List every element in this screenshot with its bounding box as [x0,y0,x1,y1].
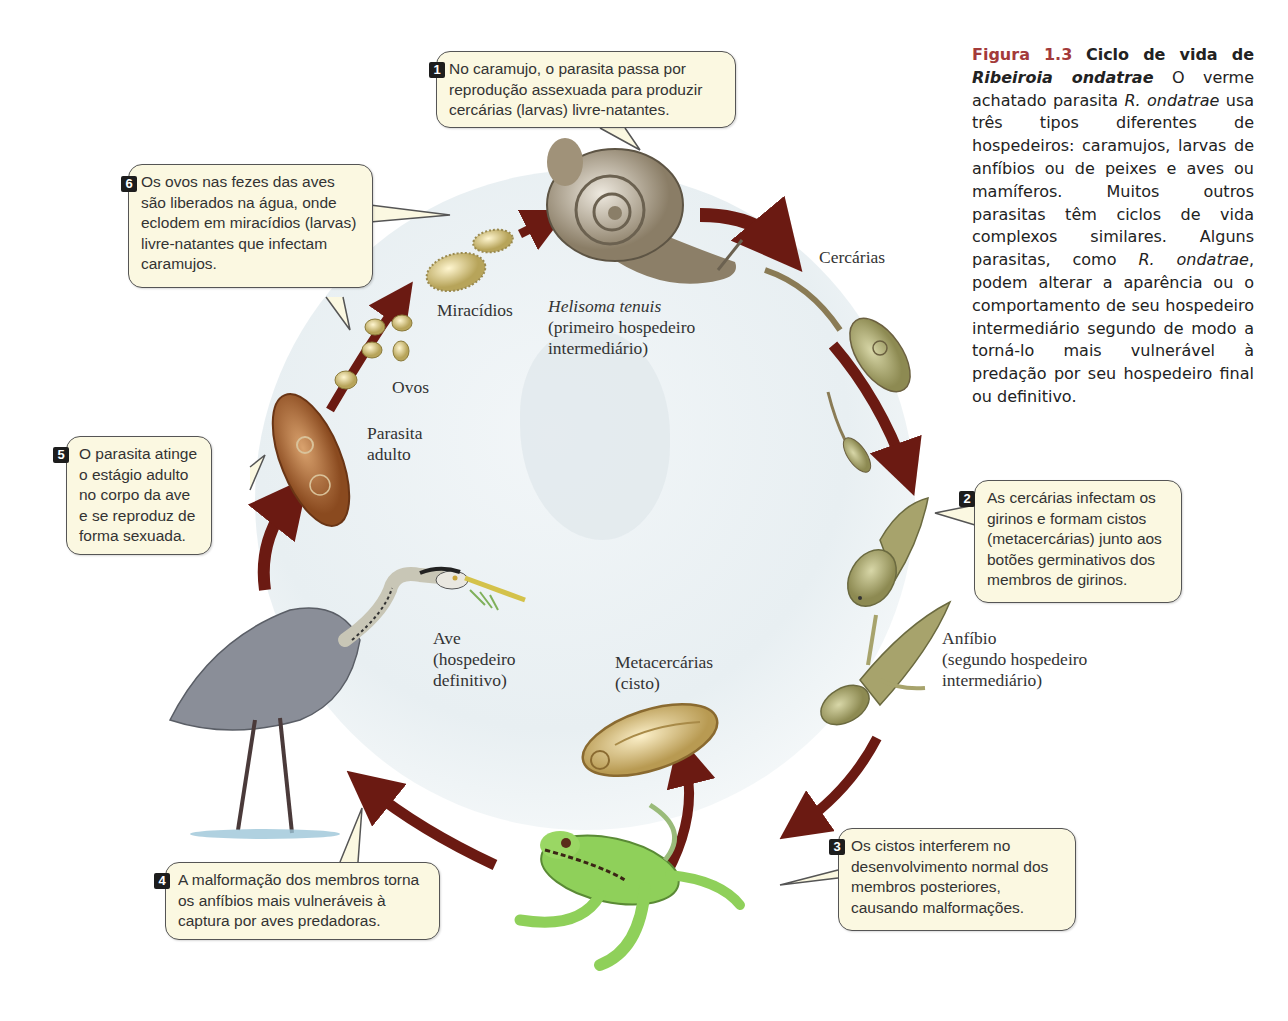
label-metacercariae: Metacercárias (cisto) [615,652,713,694]
label-bird-host: Ave (hospedeiro definitivo) [433,628,516,691]
callout-text: As cercárias infectam os girinos e forma… [987,489,1162,588]
callout-step-2: 2 As cercárias infectam os girinos e for… [974,480,1182,603]
step-number-badge: 2 [959,491,975,507]
callout-step-5: 5 O parasita atinge o estágio adulto no … [66,436,212,555]
label-text: Anfíbio [942,628,996,648]
label-amphibian-host: Anfíbio (segundo hospedeiro intermediári… [942,628,1087,691]
label-text: intermediário) [548,338,648,358]
step-number-badge: 3 [829,839,845,855]
label-text: (segundo hospedeiro [942,649,1087,669]
miracidia-illustration [422,227,514,297]
step-number-badge: 6 [121,176,137,192]
label-adult-parasite: Parasita adulto [367,423,422,465]
arrow-frog-to-bird [368,788,495,865]
metacercaria-cyst-illustration [574,690,726,790]
label-snail-host: Helisoma tenuis (primeiro hospedeiro int… [548,296,695,359]
arrow-bird-to-adult [264,500,290,590]
snail-species-name: Helisoma tenuis [548,296,661,316]
label-miracidia: Miracídios [437,300,513,321]
arrow-tadpole-to-frog [800,738,877,825]
callout-step-1: 1 No caramujo, o parasita passa por repr… [436,51,736,128]
label-text: (primeiro hospedeiro [548,317,695,337]
label-text: Ave [433,628,461,648]
label-text: Parasita [367,423,422,443]
callout-text: Os ovos nas fezes das aves são liberados… [141,173,356,272]
callout-text: O parasita atinge o estágio adulto no co… [79,445,197,544]
tadpole-illustration [838,498,928,615]
label-text: (cisto) [615,673,660,693]
label-text: Metacercárias [615,652,713,672]
label-text: adulto [367,444,411,464]
heron-illustration [170,569,525,839]
callout-text: A malformação dos membros torna os anfíb… [178,871,419,929]
arrow-miracidia-to-snail [520,220,548,234]
frog-illustration [520,805,740,965]
developing-tadpole-illustration [814,602,950,733]
callout-text: No caramujo, o parasita passa por reprod… [449,60,702,118]
label-text: (hospedeiro [433,649,516,669]
label-cercariae: Cercárias [819,247,885,268]
label-text: intermediário) [942,670,1042,690]
callout-step-4: 4 A malformação dos membros torna os anf… [165,862,440,940]
callout-step-3: 3 Os cistos interferem no desenvolviment… [838,828,1076,931]
step-number-badge: 4 [154,873,170,889]
label-eggs: Ovos [392,377,429,398]
adult-parasite-illustration [257,384,365,536]
callout-text: Os cistos interferem no desenvolvimento … [851,837,1048,916]
label-text: definitivo) [433,670,507,690]
step-number-badge: 5 [53,447,69,463]
callout-step-6: 6 Os ovos nas fezes das aves são liberad… [128,164,373,288]
step-number-badge: 1 [429,62,445,78]
